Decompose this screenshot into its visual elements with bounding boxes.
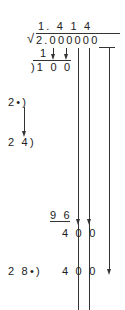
subtrahend-2: 9 6 <box>50 209 72 221</box>
divisor-trial-3: 2 8•) <box>8 265 42 277</box>
radicand: 2.000000 <box>36 34 99 46</box>
radical-sign: √ <box>27 33 36 45</box>
remainder-3: 4 0 0 <box>62 265 97 277</box>
sub-underline <box>50 221 70 222</box>
quotient: 1. 4 1 4 <box>38 20 92 32</box>
divisor-trial-1: 2•) <box>8 96 28 108</box>
remainder-2: 4 0 0 <box>62 227 97 239</box>
pair-underline <box>99 47 115 48</box>
divisor-trial-2: 2 4) <box>8 136 36 148</box>
long-arrow-line <box>109 48 110 270</box>
first-subtrahend: 1 <box>40 47 48 59</box>
down-arrow-icon <box>87 219 91 225</box>
down-arrow-icon <box>76 219 80 225</box>
divisor-arrow-line <box>24 107 25 132</box>
first-remainder: )1 0 0 <box>31 61 72 73</box>
down-arrow-icon <box>107 269 111 275</box>
